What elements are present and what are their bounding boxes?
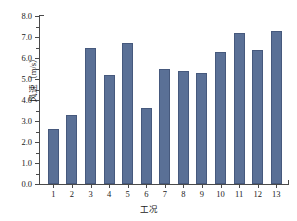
x-tick-label-1: 1 — [43, 190, 63, 199]
x-tick-8 — [183, 185, 184, 188]
y-tick-label-1.0: 1.0 — [2, 159, 32, 168]
y-tick-2.0 — [35, 142, 39, 143]
y-tick-3.0 — [35, 121, 39, 122]
x-tick-2 — [72, 185, 73, 188]
bar-5 — [122, 43, 133, 184]
x-tick-1 — [53, 185, 54, 188]
x-tick-3 — [91, 185, 92, 188]
y-tick-0.0 — [35, 184, 39, 185]
x-tick-4 — [109, 185, 110, 188]
x-tick-12 — [258, 185, 259, 188]
x-tick-label-3: 3 — [81, 190, 101, 199]
bar-4 — [104, 75, 115, 184]
bar-12 — [252, 50, 263, 184]
y-axis-title: 风速（m/s） — [26, 38, 38, 118]
x-tick-label-13: 13 — [266, 190, 286, 199]
bar-2 — [66, 115, 77, 184]
y-tick-label-0.0: 0.0 — [2, 180, 32, 189]
y-tick-minor — [36, 153, 39, 154]
x-tick-13 — [276, 185, 277, 188]
x-tick-7 — [165, 185, 166, 188]
x-tick-label-7: 7 — [155, 190, 175, 199]
plot-area — [40, 16, 288, 184]
x-tick-5 — [128, 185, 129, 188]
x-tick-label-10: 10 — [211, 190, 231, 199]
bar-8 — [178, 71, 189, 184]
x-tick-label-4: 4 — [99, 190, 119, 199]
bar-9 — [196, 73, 207, 184]
x-axis-right-cap — [288, 180, 289, 185]
x-tick-label-6: 6 — [136, 190, 156, 199]
bar-chart-figure: 0.01.02.03.04.05.06.07.08.0 123456789101… — [0, 0, 297, 221]
x-tick-6 — [146, 185, 147, 188]
x-tick-label-8: 8 — [173, 190, 193, 199]
y-tick-8.0 — [35, 16, 39, 17]
x-tick-label-12: 12 — [248, 190, 268, 199]
x-tick-label-11: 11 — [229, 190, 249, 199]
y-tick-minor — [36, 132, 39, 133]
bar-6 — [141, 108, 152, 184]
bar-1 — [48, 129, 59, 184]
y-tick-minor — [36, 174, 39, 175]
x-tick-label-5: 5 — [118, 190, 138, 199]
x-axis-title: 工况 — [0, 202, 297, 214]
x-tick-label-2: 2 — [62, 190, 82, 199]
y-tick-1.0 — [35, 163, 39, 164]
bar-3 — [85, 48, 96, 185]
bar-11 — [234, 33, 245, 184]
y-tick-label-2.0: 2.0 — [2, 138, 32, 147]
bar-7 — [159, 69, 170, 185]
x-tick-label-9: 9 — [192, 190, 212, 199]
bar-13 — [271, 31, 282, 184]
bar-10 — [215, 52, 226, 184]
x-tick-11 — [239, 185, 240, 188]
x-tick-9 — [202, 185, 203, 188]
y-tick-minor — [36, 27, 39, 28]
x-tick-10 — [221, 185, 222, 188]
y-tick-label-8.0: 8.0 — [2, 12, 32, 21]
